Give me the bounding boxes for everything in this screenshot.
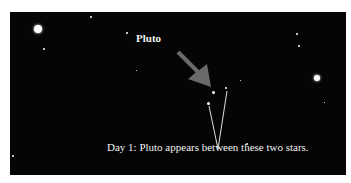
pluto-label: Pluto <box>136 32 161 44</box>
caption: Day 1: Pluto appears between these two s… <box>107 141 309 153</box>
